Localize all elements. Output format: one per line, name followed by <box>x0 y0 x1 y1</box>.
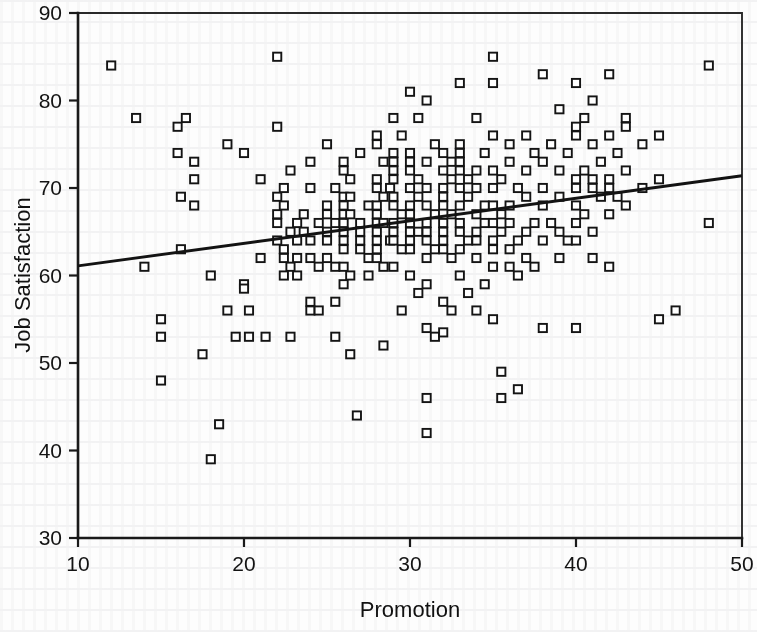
data-point <box>622 201 630 209</box>
data-point <box>346 210 354 218</box>
data-point <box>589 140 597 148</box>
x-axis-title: Promotion <box>360 597 460 622</box>
data-point <box>306 298 314 306</box>
data-point <box>315 219 323 227</box>
data-point <box>340 245 348 253</box>
data-point <box>331 333 339 341</box>
y-tick-label: 60 <box>39 264 62 287</box>
data-point <box>398 245 406 253</box>
data-point <box>456 201 464 209</box>
data-point <box>439 245 447 253</box>
data-point <box>439 193 447 201</box>
data-point <box>605 263 613 271</box>
data-point <box>589 228 597 236</box>
data-point <box>286 263 294 271</box>
data-point <box>555 166 563 174</box>
data-point <box>489 166 497 174</box>
data-point <box>132 114 140 122</box>
data-point <box>638 140 646 148</box>
data-point <box>572 324 580 332</box>
data-point <box>431 245 439 253</box>
data-point <box>423 201 431 209</box>
data-point <box>497 394 505 402</box>
data-point <box>273 193 281 201</box>
data-point <box>456 228 464 236</box>
y-tick-label: 80 <box>39 89 62 112</box>
data-point <box>340 158 348 166</box>
data-point <box>406 158 414 166</box>
data-point <box>215 420 223 428</box>
data-point <box>439 328 447 336</box>
data-point <box>472 114 480 122</box>
data-point <box>522 228 530 236</box>
y-tick-label: 40 <box>39 439 62 462</box>
data-point <box>439 166 447 174</box>
data-point <box>190 175 198 183</box>
data-point <box>456 166 464 174</box>
data-point <box>306 254 314 262</box>
data-point <box>481 219 489 227</box>
data-point <box>655 175 663 183</box>
data-point <box>340 219 348 227</box>
data-point <box>489 79 497 87</box>
data-point <box>423 236 431 244</box>
data-point <box>481 149 489 157</box>
data-point <box>580 166 588 174</box>
data-point <box>605 175 613 183</box>
data-point <box>547 140 555 148</box>
data-point <box>379 263 387 271</box>
data-point <box>572 123 580 131</box>
y-axis <box>69 13 78 538</box>
data-point <box>472 254 480 262</box>
data-point <box>373 140 381 148</box>
data-point <box>655 131 663 139</box>
data-point <box>331 263 339 271</box>
data-point <box>280 254 288 262</box>
data-point <box>315 263 323 271</box>
data-point <box>373 254 381 262</box>
y-tick-label: 30 <box>39 526 62 549</box>
data-point <box>223 140 231 148</box>
data-point <box>447 158 455 166</box>
data-point <box>306 236 314 244</box>
data-point <box>431 140 439 148</box>
data-point <box>622 166 630 174</box>
data-point <box>423 429 431 437</box>
data-point <box>174 149 182 157</box>
data-point <box>157 376 165 384</box>
data-point <box>439 149 447 157</box>
data-point <box>406 149 414 157</box>
data-point <box>572 175 580 183</box>
data-point <box>472 184 480 192</box>
data-point <box>423 158 431 166</box>
data-point <box>414 114 422 122</box>
data-point <box>555 105 563 113</box>
data-point <box>572 79 580 87</box>
data-point <box>589 175 597 183</box>
data-point <box>280 271 288 279</box>
data-point <box>273 123 281 131</box>
data-point <box>423 324 431 332</box>
data-point <box>379 341 387 349</box>
data-point <box>423 184 431 192</box>
data-point <box>406 271 414 279</box>
data-point <box>373 184 381 192</box>
data-point <box>389 149 397 157</box>
data-point <box>431 333 439 341</box>
data-point <box>207 271 215 279</box>
data-point <box>386 184 394 192</box>
data-point <box>398 131 406 139</box>
x-tick-label: 20 <box>232 552 255 575</box>
data-point <box>514 236 522 244</box>
data-point <box>331 184 339 192</box>
data-point <box>472 236 480 244</box>
data-point <box>672 306 680 314</box>
x-tick-labels: 1020304050 <box>66 552 753 575</box>
data-point <box>572 201 580 209</box>
data-point <box>439 228 447 236</box>
data-point <box>406 184 414 192</box>
y-tick-label: 50 <box>39 351 62 374</box>
data-point <box>174 123 182 131</box>
data-point <box>613 149 621 157</box>
data-point <box>240 285 248 293</box>
